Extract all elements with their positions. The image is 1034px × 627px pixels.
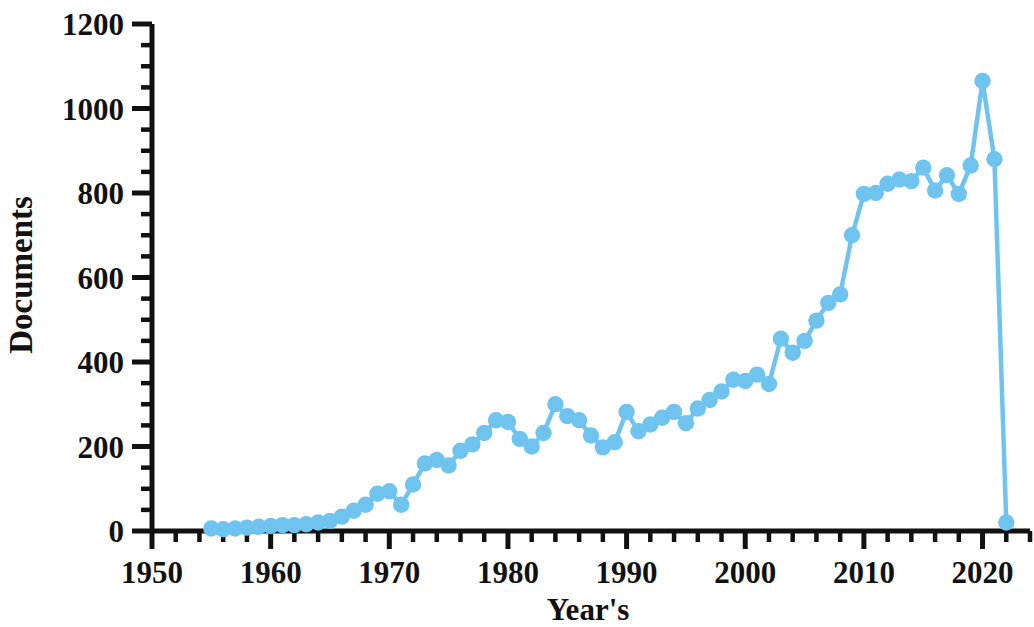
data-point [523, 438, 539, 454]
data-point [405, 476, 421, 492]
data-point [500, 414, 516, 430]
x-tick-label: 1960 [240, 555, 302, 590]
x-tick-label: 2010 [833, 555, 895, 590]
y-tick-label: 800 [78, 176, 125, 211]
data-point [476, 425, 492, 441]
x-tick-label: 2000 [714, 555, 776, 590]
data-point [986, 151, 1002, 167]
data-point [915, 159, 931, 175]
data-point [832, 286, 848, 302]
data-point [666, 404, 682, 420]
x-tick-label: 1970 [358, 555, 420, 590]
data-point [393, 497, 409, 513]
y-tick-label: 1200 [62, 7, 124, 42]
data-point [678, 415, 694, 431]
data-point [547, 396, 563, 412]
x-tick-label: 1980 [477, 555, 539, 590]
data-point [903, 173, 919, 189]
data-point [962, 157, 978, 173]
data-point [939, 167, 955, 183]
data-point [571, 412, 587, 428]
x-tick-label: 2020 [952, 555, 1014, 590]
data-point [535, 425, 551, 441]
y-tick-label: 200 [78, 430, 125, 465]
data-point [808, 312, 824, 328]
x-tick-label: 1950 [121, 555, 183, 590]
data-point [607, 434, 623, 450]
data-point [583, 427, 599, 443]
data-point [785, 345, 801, 361]
data-point [998, 514, 1014, 530]
data-point [951, 186, 967, 202]
data-point [761, 376, 777, 392]
y-tick-label: 600 [78, 261, 125, 296]
data-point [844, 227, 860, 243]
chart-container: 020040060080010001200 195019601970198019… [0, 0, 1034, 627]
data-point [713, 383, 729, 399]
data-point [974, 73, 990, 89]
y-tick-label: 1000 [62, 92, 124, 127]
data-point [381, 483, 397, 499]
data-point [927, 182, 943, 198]
y-tick-label: 0 [109, 514, 125, 549]
data-point [440, 457, 456, 473]
data-point [464, 436, 480, 452]
data-point [773, 331, 789, 347]
y-tick-label: 400 [78, 345, 125, 380]
data-point [796, 333, 812, 349]
documents-per-year-line-chart: 020040060080010001200 195019601970198019… [0, 0, 1034, 627]
x-axis-title: Year's [547, 592, 630, 627]
x-tick-label: 1990 [596, 555, 658, 590]
data-point [618, 404, 634, 420]
y-axis-title: Documents [3, 196, 39, 354]
